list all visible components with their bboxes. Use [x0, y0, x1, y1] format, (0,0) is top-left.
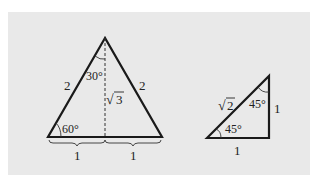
bottom-angle-label: 45° [225, 122, 242, 136]
height-sqrt-symbol: √ [106, 92, 114, 107]
base-half-right-label: 1 [130, 148, 137, 163]
base-angle-label: 60° [62, 122, 79, 136]
vertical-leg-label: 1 [274, 101, 281, 116]
side-right-label: 2 [139, 78, 146, 93]
apex-angle-arc [95, 56, 105, 59]
bottom-angle-arc [216, 129, 221, 138]
top-angle-arc [258, 87, 269, 92]
apex-angle-label: 30° [86, 69, 103, 83]
height-label: 3 [116, 92, 123, 107]
base-half-left-label: 1 [74, 148, 81, 163]
triangles-figure: 2 2 30° 60° √ 3 1 1 √ 2 45° 45° 1 1 [0, 0, 316, 184]
base-brace-left [49, 140, 105, 146]
base-brace-right [105, 140, 161, 146]
hypotenuse-sqrt-symbol: √ [218, 98, 226, 113]
right-triangle: √ 2 45° 45° 1 1 [207, 76, 281, 158]
horizontal-leg-label: 1 [234, 143, 241, 158]
base-angle-arc [56, 123, 61, 137]
top-angle-label: 45° [249, 97, 266, 111]
equilateral-triangle: 2 2 30° 60° √ 3 1 1 [48, 38, 162, 163]
side-left-label: 2 [64, 78, 71, 93]
hypotenuse-label: 2 [227, 98, 234, 113]
